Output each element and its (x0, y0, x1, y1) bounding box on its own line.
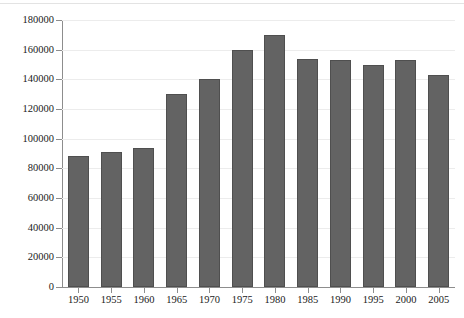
bar[interactable] (232, 50, 253, 287)
bar[interactable] (428, 75, 449, 287)
bar[interactable] (166, 94, 187, 287)
bar[interactable] (395, 60, 416, 287)
bar[interactable] (101, 152, 122, 287)
bar[interactable] (297, 59, 318, 287)
bar-chart: 0200004000060000800001000001200001400001… (0, 0, 464, 318)
bar[interactable] (68, 156, 89, 287)
bar[interactable] (363, 65, 384, 288)
bars-layer (0, 0, 464, 318)
bar[interactable] (133, 148, 154, 287)
bar[interactable] (199, 79, 220, 287)
bar[interactable] (264, 35, 285, 287)
bar[interactable] (330, 60, 351, 287)
